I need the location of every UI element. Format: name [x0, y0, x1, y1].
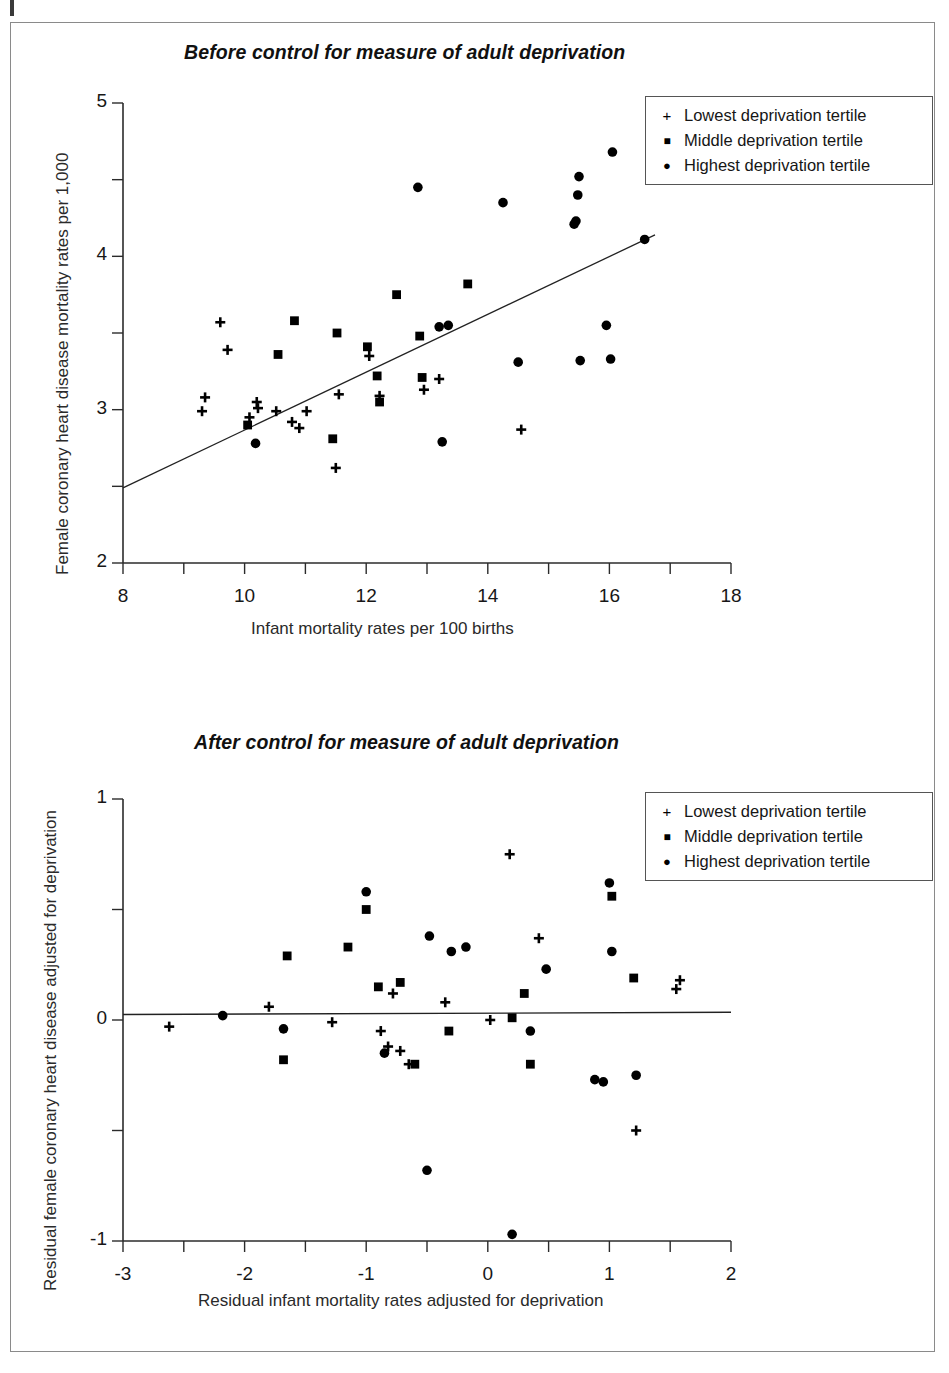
data-point — [376, 1026, 386, 1036]
data-point — [675, 975, 685, 985]
data-point — [508, 1013, 517, 1022]
data-point — [671, 984, 681, 994]
legend-label-lowest: Lowest deprivation tertile — [680, 802, 867, 821]
data-point — [363, 342, 372, 351]
data-point — [380, 1048, 390, 1058]
data-point — [243, 421, 252, 430]
data-point — [410, 1060, 419, 1069]
data-point — [361, 887, 371, 897]
data-point — [513, 357, 523, 367]
data-point — [599, 1077, 609, 1087]
circle-icon: ● — [654, 159, 680, 172]
data-point — [283, 952, 292, 961]
legend-before: + Lowest deprivation tertile ■ Middle de… — [645, 96, 933, 185]
data-point — [573, 190, 583, 200]
data-point — [334, 389, 344, 399]
data-point — [418, 373, 427, 382]
data-point — [437, 437, 447, 447]
data-point — [302, 406, 312, 416]
y-tick-label: 1 — [75, 786, 107, 808]
data-point — [571, 216, 581, 226]
data-point — [640, 235, 650, 245]
data-point — [607, 947, 617, 957]
square-icon: ■ — [654, 831, 680, 843]
data-point — [415, 332, 424, 341]
data-point — [608, 147, 618, 157]
data-point — [223, 345, 233, 355]
data-point — [443, 321, 453, 331]
data-point — [605, 878, 615, 888]
legend-item-lowest: + Lowest deprivation tertile — [654, 799, 922, 824]
data-point — [392, 290, 401, 299]
data-point — [526, 1060, 535, 1069]
data-point — [440, 997, 450, 1007]
x-tick-label: -2 — [231, 1263, 259, 1285]
data-point — [574, 172, 584, 182]
x-tick-label: 16 — [595, 585, 623, 607]
data-point — [251, 439, 261, 449]
legend-item-highest: ● Highest deprivation tertile — [654, 849, 922, 874]
x-tick-label: 0 — [474, 1263, 502, 1285]
figure-page: Before control for measure of adult depr… — [0, 0, 949, 1373]
legend-after: + Lowest deprivation tertile ■ Middle de… — [645, 792, 933, 881]
legend-label-lowest: Lowest deprivation tertile — [680, 106, 867, 125]
legend-item-highest: ● Highest deprivation tertile — [654, 153, 922, 178]
x-tick-label: 1 — [595, 1263, 623, 1285]
data-point — [200, 392, 210, 402]
data-point — [541, 964, 551, 974]
data-point — [516, 425, 526, 435]
legend-label-highest: Highest deprivation tertile — [680, 156, 870, 175]
x-tick-label: 14 — [474, 585, 502, 607]
square-icon: ■ — [654, 135, 680, 147]
legend-item-middle: ■ Middle deprivation tertile — [654, 824, 922, 849]
data-point — [463, 280, 472, 289]
data-point — [607, 892, 616, 901]
data-point — [526, 1026, 536, 1036]
data-point — [606, 354, 616, 364]
data-point — [507, 1230, 517, 1240]
legend-item-middle: ■ Middle deprivation tertile — [654, 128, 922, 153]
x-tick-label: -3 — [109, 1263, 137, 1285]
data-point — [374, 982, 383, 991]
data-point — [534, 933, 544, 943]
x-tick-label: -1 — [352, 1263, 380, 1285]
data-point — [362, 905, 371, 914]
y-tick-label: 5 — [75, 90, 107, 112]
data-point — [279, 1024, 289, 1034]
data-point — [294, 423, 304, 433]
legend-label-middle: Middle deprivation tertile — [680, 827, 863, 846]
data-point — [413, 183, 423, 193]
data-point — [264, 1002, 274, 1012]
figure-frame: Before control for measure of adult depr… — [10, 22, 935, 1352]
legend-label-highest: Highest deprivation tertile — [680, 852, 870, 871]
data-point — [485, 1015, 495, 1025]
crop-mark — [10, 0, 14, 16]
data-point — [279, 1055, 288, 1064]
data-point — [575, 356, 585, 366]
data-point — [434, 374, 444, 384]
data-point — [602, 321, 612, 331]
plus-icon: + — [654, 804, 680, 819]
data-point — [447, 947, 457, 957]
data-point — [388, 988, 398, 998]
x-tick-label: 18 — [717, 585, 745, 607]
data-point — [631, 1070, 641, 1080]
data-point — [271, 406, 281, 416]
y-tick-label: 0 — [75, 1007, 107, 1029]
data-point — [395, 1046, 405, 1056]
data-point — [290, 316, 299, 325]
circle-icon: ● — [654, 855, 680, 868]
y-tick-label: 3 — [75, 397, 107, 419]
data-point — [164, 1022, 174, 1032]
data-point — [505, 849, 515, 859]
data-point — [396, 978, 405, 987]
data-point — [197, 406, 207, 416]
x-tick-label: 2 — [717, 1263, 745, 1285]
data-point — [375, 398, 384, 407]
data-point — [434, 322, 444, 332]
data-point — [444, 1027, 453, 1036]
data-point — [344, 943, 353, 952]
data-point — [327, 1017, 337, 1027]
plus-icon: + — [654, 108, 680, 123]
data-point — [215, 317, 225, 327]
